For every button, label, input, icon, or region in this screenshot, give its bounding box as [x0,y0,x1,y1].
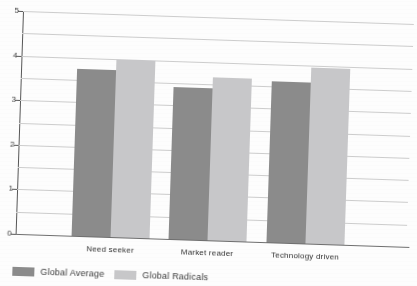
x-label-technology-driven: Technology driven [257,250,353,263]
x-axis-labels: Need seekerMarket readerTechnology drive… [0,0,417,13]
bar-global-radicals-need-seeker [111,59,156,239]
y-tick-label-2: 2 [0,139,15,149]
chart: Need seekerMarket readerTechnology drive… [0,0,417,286]
gridline-4.5 [22,33,413,47]
legend-label-global-average: Global Average [40,267,105,280]
bar-global-radicals-technology-driven [305,67,350,244]
legend-swatch-global-average [12,267,34,277]
y-tick-label-1: 1 [0,184,13,194]
y-tick-label-4: 4 [2,50,17,60]
legend: Global AverageGlobal Radicals [0,0,417,13]
y-tick-label-5: 5 [4,5,19,15]
x-label-need-seeker: Need seeker [62,243,158,256]
gridline-5.0 [23,11,414,25]
y-tick-label-0: 0 [0,228,12,238]
bar-global-average-need-seeker [72,69,117,237]
bar-global-radicals-market-reader [208,78,252,242]
legend-item-global-radicals: Global Radicals [114,269,208,283]
legend-swatch-global-radicals [114,270,136,280]
x-label-market-reader: Market reader [159,247,255,260]
legend-item-global-average: Global Average [12,266,105,280]
plot-area [16,11,414,247]
bar-global-average-market-reader [169,87,213,240]
scanned-bar-chart: Need seekerMarket readerTechnology drive… [0,0,417,286]
legend-label-global-radicals: Global Radicals [142,270,208,283]
gridline-4.0 [21,56,412,70]
bar-global-average-technology-driven [266,82,310,244]
y-tick-label-3: 3 [1,95,16,105]
